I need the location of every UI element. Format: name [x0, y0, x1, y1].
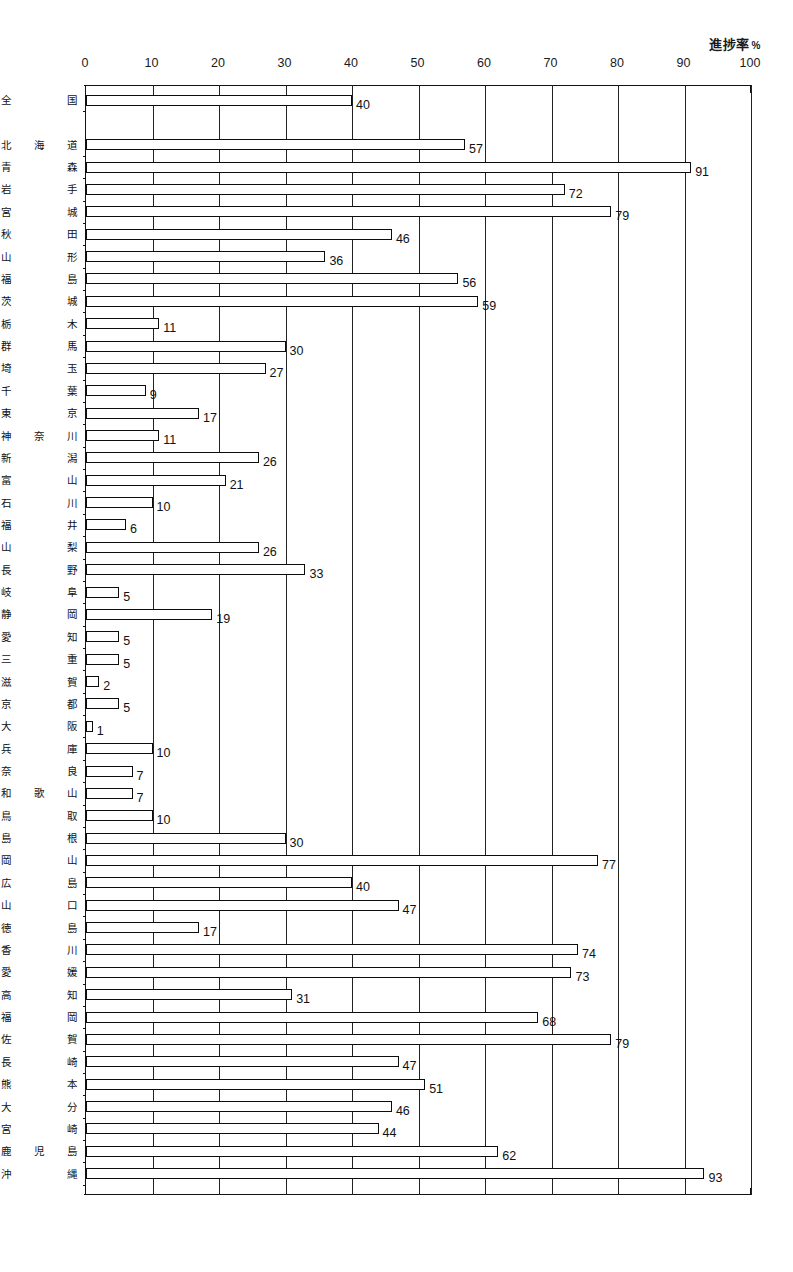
bar-value-label: 77 [602, 858, 616, 872]
bar-value-label: 9 [150, 388, 157, 402]
bar[interactable] [86, 1034, 611, 1045]
bar[interactable] [86, 385, 146, 396]
y-axis-tick [83, 916, 87, 917]
bar[interactable] [86, 721, 93, 732]
bar[interactable] [86, 363, 266, 374]
bar-value-label: 10 [157, 500, 171, 514]
bar[interactable] [86, 184, 565, 195]
bar[interactable] [86, 273, 458, 284]
category-label: 神奈川 [1, 430, 77, 442]
category-label: 栃木 [1, 318, 77, 330]
bar[interactable] [86, 408, 199, 419]
bar[interactable] [86, 788, 133, 799]
bar[interactable] [86, 810, 153, 821]
y-axis-tick [83, 984, 87, 985]
y-axis-tick [83, 559, 87, 560]
category-label: 富山 [1, 474, 77, 486]
bar[interactable] [86, 900, 399, 911]
bar[interactable] [86, 922, 199, 933]
bar[interactable] [86, 1168, 704, 1179]
bar-value-label: 73 [575, 970, 589, 984]
bar-value-label: 57 [469, 142, 483, 156]
bar[interactable] [86, 944, 578, 955]
bar-value-label: 47 [403, 903, 417, 917]
bar[interactable] [86, 296, 478, 307]
bar[interactable] [86, 631, 119, 642]
category-label: 宮崎 [1, 1123, 77, 1135]
bar-value-label: 10 [157, 746, 171, 760]
bar-value-label: 11 [163, 321, 176, 335]
bar-value-label: 62 [502, 1149, 516, 1163]
y-axis-tick [83, 670, 87, 671]
bar-value-label: 5 [123, 701, 130, 715]
bar[interactable] [86, 1056, 399, 1067]
bar[interactable] [86, 1101, 392, 1112]
category-label: 静岡 [1, 608, 77, 620]
bar-value-label: 21 [230, 478, 244, 492]
bar[interactable] [86, 95, 352, 106]
bar-value-label: 17 [203, 925, 217, 939]
bar-value-label: 91 [695, 165, 709, 179]
gridline [419, 85, 420, 1195]
x-tick-label: 30 [278, 56, 292, 70]
y-axis-tick [83, 447, 87, 448]
bar[interactable] [86, 341, 286, 352]
bar[interactable] [86, 1079, 425, 1090]
bar[interactable] [86, 497, 153, 508]
bar[interactable] [86, 587, 119, 598]
bar-value-label: 68 [542, 1015, 556, 1029]
bar[interactable] [86, 833, 286, 844]
bar[interactable] [86, 654, 119, 665]
bar[interactable] [86, 430, 159, 441]
bar[interactable] [86, 206, 611, 217]
category-label: 三重 [1, 653, 77, 665]
gridline [352, 85, 353, 1195]
y-axis-tick [83, 178, 87, 179]
bar[interactable] [86, 542, 259, 553]
category-label: 北海道 [1, 139, 77, 151]
bar-value-label: 40 [356, 98, 370, 112]
y-axis-tick [83, 581, 87, 582]
bar[interactable] [86, 318, 159, 329]
y-axis-tick [83, 268, 87, 269]
bar[interactable] [86, 855, 598, 866]
category-label: 石川 [1, 497, 77, 509]
y-axis-tick [83, 201, 87, 202]
y-axis-tick [83, 1140, 87, 1141]
category-label: 新潟 [1, 452, 77, 464]
bar[interactable] [86, 519, 126, 530]
category-label: 岐阜 [1, 586, 77, 598]
bar-value-label: 93 [708, 1171, 722, 1185]
bar[interactable] [86, 1146, 498, 1157]
gridline [751, 85, 752, 1195]
bar[interactable] [86, 676, 99, 687]
bar[interactable] [86, 967, 571, 978]
bar[interactable] [86, 766, 133, 777]
bar[interactable] [86, 698, 119, 709]
bar[interactable] [86, 139, 465, 150]
category-label: 奈良 [1, 765, 77, 777]
bar[interactable] [86, 877, 352, 888]
bar[interactable] [86, 475, 226, 486]
gridline [618, 85, 619, 1195]
category-label: 佐賀 [1, 1033, 77, 1045]
y-axis-tick [83, 357, 87, 358]
y-axis-tick [83, 603, 87, 604]
bar-value-label: 46 [396, 232, 410, 246]
bar[interactable] [86, 564, 305, 575]
bar[interactable] [86, 1123, 379, 1134]
bar[interactable] [86, 229, 392, 240]
bar[interactable] [86, 1012, 538, 1023]
bar[interactable] [86, 609, 212, 620]
bar[interactable] [86, 251, 325, 262]
bar[interactable] [86, 452, 259, 463]
bar[interactable] [86, 989, 292, 1000]
chart-title: 進捗率% [709, 34, 761, 53]
bar[interactable] [86, 743, 153, 754]
bar[interactable] [86, 162, 691, 173]
category-label: 岡山 [1, 854, 77, 866]
category-label: 愛知 [1, 631, 77, 643]
category-label: 山口 [1, 899, 77, 911]
category-label: 福井 [1, 519, 77, 531]
y-axis-tick [83, 648, 87, 649]
